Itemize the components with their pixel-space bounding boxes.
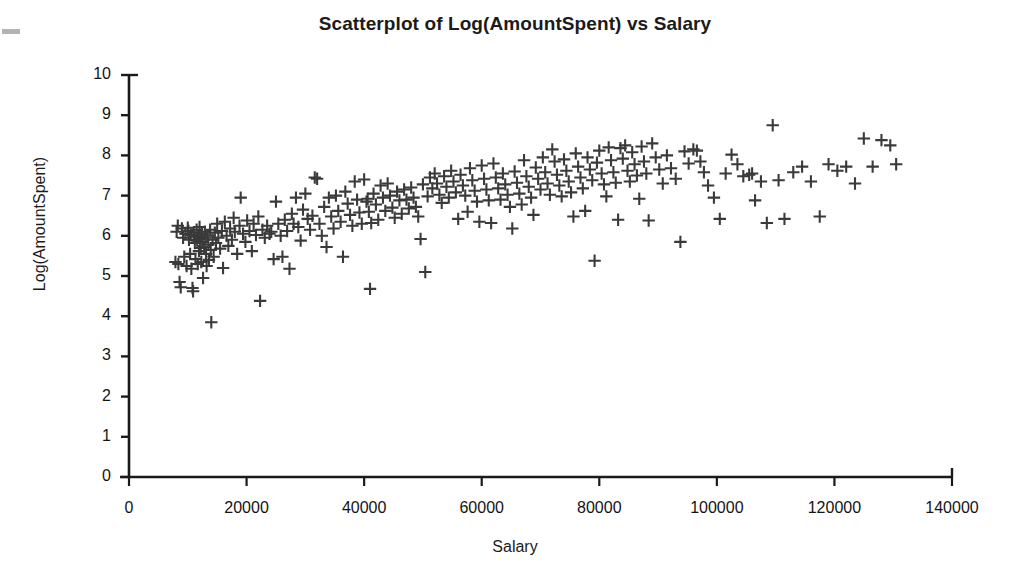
scatter-marker: [778, 213, 790, 225]
scatter-marker: [890, 158, 902, 170]
scatter-marker: [523, 181, 535, 193]
scatter-marker: [478, 173, 490, 185]
scatter-marker: [332, 205, 344, 217]
x-tick-label: 140000: [892, 499, 1012, 517]
scatter-marker: [767, 119, 779, 131]
scatter-marker: [239, 236, 251, 248]
scatter-marker: [480, 183, 492, 195]
scatter-marker: [719, 167, 731, 179]
scatter-marker: [650, 151, 662, 163]
scatter-marker: [476, 159, 488, 171]
scatter-marker: [646, 137, 658, 149]
scatter-marker: [628, 158, 640, 170]
scatter-marker: [570, 147, 582, 159]
scatter-marker: [858, 132, 870, 144]
scatter-marker: [586, 174, 598, 186]
scatter-marker: [405, 181, 417, 193]
scatter-marker: [346, 220, 358, 232]
scatter-marker: [309, 171, 321, 183]
y-tick-label: 10: [51, 65, 111, 83]
scatter-marker: [525, 191, 537, 203]
scatter-marker: [197, 272, 209, 284]
y-tick-label: 8: [51, 145, 111, 163]
y-tick-label: 4: [51, 306, 111, 324]
scatter-marker: [617, 152, 629, 164]
scatter-marker: [187, 285, 199, 297]
scatter-marker: [598, 178, 610, 190]
scatter-marker: [217, 262, 229, 274]
scatter-marker: [433, 189, 445, 201]
scatter-marker: [761, 217, 773, 229]
scatter-marker: [694, 155, 706, 167]
scatter-marker: [638, 155, 650, 167]
scatter-marker: [506, 222, 518, 234]
scatter-marker: [381, 177, 393, 189]
scatter-marker: [313, 218, 325, 230]
scatter-marker: [708, 191, 720, 203]
scatter-marker: [286, 207, 298, 219]
scatter-marker: [485, 217, 497, 229]
scatter-marker: [461, 205, 473, 217]
y-axis-title: Log(AmountSpent): [31, 144, 49, 304]
x-tick-label: 0: [69, 499, 189, 517]
scatter-marker: [642, 214, 654, 226]
scatter-marker: [588, 255, 600, 267]
scatter-marker: [678, 145, 690, 157]
scatter-marker: [473, 216, 485, 228]
scatter-marker: [755, 175, 767, 187]
scatter-marker: [483, 194, 495, 206]
scatter-marker: [657, 177, 669, 189]
scatter-marker: [574, 171, 586, 183]
scatter-marker: [360, 195, 372, 207]
scatter-marker: [344, 209, 356, 221]
scatter-marker: [370, 198, 382, 210]
scatter-marker: [364, 283, 376, 295]
scatter-marker: [234, 191, 246, 203]
scatter-marker: [410, 201, 422, 213]
scatter-marker: [537, 151, 549, 163]
scatter-marker: [567, 210, 579, 222]
scatter-marker: [527, 209, 539, 221]
scatter-marker: [866, 160, 878, 172]
scatter-marker: [626, 146, 638, 158]
scatter-marker: [398, 183, 410, 195]
scatter-marker: [372, 214, 384, 226]
scatter-marker: [584, 163, 596, 175]
scatter-marker: [283, 263, 295, 275]
scatter-marker: [558, 153, 570, 165]
scatter-marker: [320, 241, 332, 253]
scatter-marker: [337, 251, 349, 263]
scatter-marker: [464, 162, 476, 174]
y-tick-label: 1: [51, 427, 111, 445]
scatter-marker: [407, 191, 419, 203]
y-tick-label: 6: [51, 226, 111, 244]
scatter-marker: [640, 167, 652, 179]
scatter-marker: [593, 144, 605, 156]
x-tick-label: 80000: [539, 499, 659, 517]
scatter-marker: [508, 165, 520, 177]
scatter-marker: [822, 158, 834, 170]
scatter-marker: [419, 266, 431, 278]
scatter-marker: [518, 154, 530, 166]
y-tick-label: 3: [51, 346, 111, 364]
scatter-marker: [304, 224, 316, 236]
scatter-marker: [725, 148, 737, 160]
scatter-marker: [605, 154, 617, 166]
scatter-marker: [515, 198, 527, 210]
scatter-marker: [579, 205, 591, 217]
scatter-marker: [254, 295, 266, 307]
scatter-marker: [172, 258, 184, 270]
scatter-marker: [231, 248, 243, 260]
scatter-marker: [607, 166, 619, 178]
scatter-marker: [548, 155, 560, 167]
scatter-marker: [452, 213, 464, 225]
scatter-marker: [386, 201, 398, 213]
scatter-marker: [276, 251, 288, 263]
scatter-plot: Log(AmountSpent) Salary 0123456789100200…: [0, 0, 1030, 582]
scatter-marker: [520, 170, 532, 182]
x-axis-title: Salary: [0, 538, 1030, 556]
scatter-marker: [400, 193, 412, 205]
scatter-marker: [746, 167, 758, 179]
scatter-marker: [787, 166, 799, 178]
scatter-marker: [471, 195, 483, 207]
